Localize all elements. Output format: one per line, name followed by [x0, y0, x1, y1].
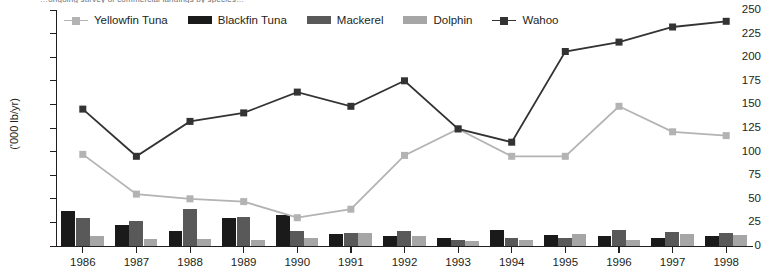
x-tick-mark: [618, 247, 619, 253]
marker-wahoo-1997: [669, 24, 676, 31]
x-tick-mark: [511, 247, 512, 253]
line-layer: [56, 10, 753, 246]
x-tick-label: 1997: [643, 256, 703, 268]
line-yellowfin-tuna: [83, 106, 726, 217]
marker-yellowfin-tuna-1998: [723, 132, 730, 139]
marker-yellowfin-tuna-1994: [508, 153, 515, 160]
x-tick-label: 1987: [106, 256, 166, 268]
x-tick-mark: [458, 247, 459, 253]
x-tick-label: 1998: [696, 256, 756, 268]
marker-wahoo-1995: [562, 48, 569, 55]
plot-area: [56, 10, 753, 246]
marker-yellowfin-tuna-1991: [347, 206, 354, 213]
marker-yellowfin-tuna-1997: [669, 128, 676, 135]
x-tick-label: 1993: [428, 256, 488, 268]
marker-wahoo-1993: [455, 125, 462, 132]
marker-wahoo-1996: [616, 39, 623, 46]
x-tick-label: 1992: [375, 256, 435, 268]
x-tick-label: 1991: [321, 256, 381, 268]
marker-wahoo-1992: [401, 77, 408, 84]
marker-wahoo-1986: [79, 106, 86, 113]
marker-yellowfin-tuna-1992: [401, 152, 408, 159]
x-tick-mark: [726, 247, 727, 253]
marker-wahoo-1994: [508, 139, 515, 146]
marker-yellowfin-tuna-1986: [79, 151, 86, 158]
fisheries-landings-chart: …ongoing survey of commercial landings b…: [0, 0, 761, 272]
x-tick-mark: [243, 247, 244, 253]
x-tick-mark: [672, 247, 673, 253]
x-tick-label: 1988: [160, 256, 220, 268]
marker-yellowfin-tuna-1987: [133, 191, 140, 198]
line-wahoo: [83, 21, 726, 156]
marker-yellowfin-tuna-1995: [562, 153, 569, 160]
marker-wahoo-1991: [347, 103, 354, 110]
x-tick-label: 1989: [214, 256, 274, 268]
x-tick-mark: [136, 247, 137, 253]
marker-wahoo-1987: [133, 153, 140, 160]
chart-title-clipped: …ongoing survey of commercial landings b…: [40, 0, 740, 3]
x-tick-mark: [297, 247, 298, 253]
x-tick-mark: [404, 247, 405, 253]
marker-yellowfin-tuna-1989: [240, 198, 247, 205]
marker-wahoo-1988: [187, 118, 194, 125]
x-tick-label: 1996: [589, 256, 649, 268]
marker-wahoo-1989: [240, 109, 247, 116]
x-tick-label: 1995: [535, 256, 595, 268]
x-tick-mark: [82, 247, 83, 253]
x-tick-mark: [350, 247, 351, 253]
x-tick-label: 1994: [482, 256, 542, 268]
marker-wahoo-1990: [294, 89, 301, 96]
x-tick-mark: [565, 247, 566, 253]
x-tick-mark: [190, 247, 191, 253]
marker-yellowfin-tuna-1996: [616, 103, 623, 110]
y-axis-label: ('000 lb/yr): [8, 89, 20, 159]
marker-yellowfin-tuna-1990: [294, 214, 301, 221]
marker-wahoo-1998: [723, 18, 730, 25]
x-tick-label: 1990: [267, 256, 327, 268]
x-tick-label: 1986: [53, 256, 113, 268]
marker-yellowfin-tuna-1988: [187, 195, 194, 202]
